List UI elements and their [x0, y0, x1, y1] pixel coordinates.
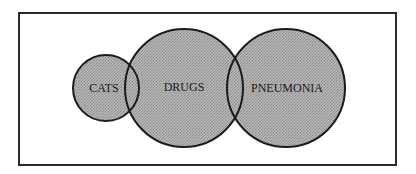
pneumonia-label: PNEUMONIA [251, 81, 323, 95]
drugs-label: DRUGS [164, 80, 205, 94]
venn-diagram-stage: CATS DRUGS PNEUMONIA [0, 0, 416, 174]
venn-diagram: CATS DRUGS PNEUMONIA [0, 0, 416, 174]
cats-label: CATS [89, 81, 118, 95]
